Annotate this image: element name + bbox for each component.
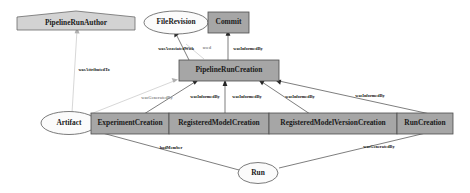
node-experiment-creation[interactable]: ExperimentCreation <box>91 113 169 134</box>
commit-label: Commit <box>216 17 242 26</box>
edge-label-was-informed-by-registered-model: wasInformedBy <box>232 94 262 99</box>
edge-label-was-informed-by-experiment: wasInformedBy <box>190 94 220 99</box>
node-registered-model-version-creation[interactable]: RegisteredModelVersionCreation <box>269 113 397 134</box>
file-revision-label: FileRevision <box>156 17 195 26</box>
edge-label-was-generated-by-run: wasGeneratedBy <box>363 144 395 149</box>
edge-was-informed-by-commit <box>226 30 231 61</box>
node-pipeline-run-creation[interactable]: PipelineRunCreation <box>179 60 279 81</box>
edge-label-was-informed-by-run-creation: wasInformedBy <box>355 93 385 98</box>
node-run-creation[interactable]: RunCreation <box>397 113 453 134</box>
edge-label-was-associated-with: wasAssociatedWith <box>158 46 194 51</box>
pipeline-run-author-label: PipelineRunAuthor <box>45 18 108 27</box>
run-label: Run <box>251 168 265 177</box>
node-commit[interactable]: Commit <box>208 12 249 33</box>
provenance-graph-canvas: PipelineRunAuthor FileRevision Commit Pi… <box>0 0 470 193</box>
edge-label-had-member: hadMember <box>160 145 183 150</box>
run-creation-label: RunCreation <box>404 118 445 127</box>
registered-model-creation-label: RegisteredModelCreation <box>178 118 259 127</box>
experiment-creation-label: ExperimentCreation <box>97 118 162 127</box>
edge-was-generated-by-run-line <box>279 132 430 168</box>
pipeline-run-creation-label: PipelineRunCreation <box>196 65 263 74</box>
edge-label-was-generated-by-artifact: wasGeneratedBy <box>141 95 173 100</box>
node-pipeline-run-author[interactable]: PipelineRunAuthor <box>17 11 135 30</box>
edge-was-generated-by-run <box>279 129 434 168</box>
registered-model-version-creation-label: RegisteredModelVersionCreation <box>280 118 385 127</box>
node-registered-model-creation[interactable]: RegisteredModelCreation <box>169 113 269 134</box>
edge-label-was-informed-by-registered-model-version: wasInformedBy <box>285 94 315 99</box>
edge-label-was-attributed-to: wasAttributedTo <box>78 67 109 72</box>
edge-label-was-informed-by-commit: wasInformedBy <box>233 46 263 51</box>
edge-was-informed-by-registered-model <box>223 80 228 115</box>
node-run[interactable]: Run <box>238 163 278 184</box>
edge-had-member-line <box>95 131 239 170</box>
provenance-diagram: PipelineRunAuthor FileRevision Commit Pi… <box>0 0 470 193</box>
artifact-label: Artifact <box>56 118 82 127</box>
edge-label-used: used <box>203 45 212 50</box>
node-file-revision[interactable]: FileRevision <box>144 11 208 34</box>
edge-was-attributed-to-line <box>72 30 77 113</box>
edge-was-generated-by-artifact-arrowhead <box>172 78 178 83</box>
node-artifact[interactable]: Artifact <box>41 112 97 135</box>
